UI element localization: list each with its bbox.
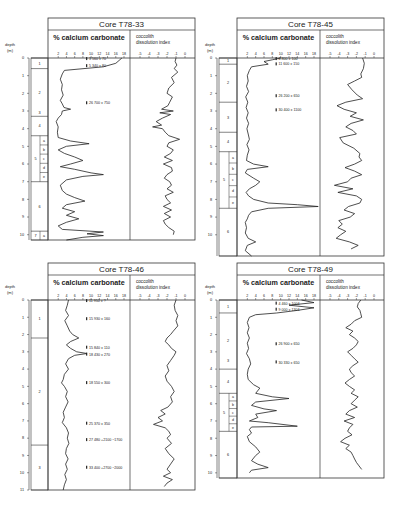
cdi-header-line1: coccolith (326, 279, 344, 284)
unit-label: 4 (227, 140, 229, 144)
cdi-tick: -1 (174, 52, 177, 56)
depth-tick: 4 (22, 127, 24, 131)
caco3-tick: 18 (312, 294, 316, 298)
depth-tick: 5 (210, 385, 212, 389)
cdi-tick: -2 (165, 294, 168, 298)
cdi-tick: -5 (328, 52, 331, 56)
depth-tick: 1 (22, 316, 24, 320)
depth-tick: 8 (22, 436, 24, 440)
cdi-header-line2: dissolution index (326, 40, 361, 45)
depth-tick: 4 (22, 367, 24, 371)
cdi-tick: -4 (337, 52, 340, 56)
caco3-tick: 8 (271, 294, 273, 298)
unit-label: 3 (38, 466, 40, 470)
subunit-label: e (232, 201, 234, 205)
depth-tick: 1 (22, 74, 24, 78)
depth-tick: 3 (22, 350, 24, 354)
caco3-tick: 12 (97, 52, 101, 56)
caco3-curve (247, 300, 315, 473)
cdi-tick: -1 (364, 294, 367, 298)
cdi-tick: -2 (355, 294, 358, 298)
caco3-tick: 10 (279, 52, 283, 56)
depth-unit: (m) (207, 290, 214, 295)
caco3-tick: 2 (246, 294, 248, 298)
caco3-tick: 2 (57, 52, 59, 56)
caco3-tick: 6 (74, 52, 76, 56)
depth-label: depth (205, 42, 215, 47)
radiocarbon-date: 18 430 ± 270 (89, 353, 110, 357)
depth-tick: 9 (22, 215, 24, 219)
depth-tick: 2 (210, 333, 212, 337)
depth-label: depth (205, 284, 215, 289)
caco3-tick: 10 (89, 52, 93, 56)
unit-label: 5 (223, 178, 225, 182)
subunit-label: c (232, 411, 234, 415)
caco3-header: % calcium carbonate (243, 278, 315, 287)
unit-label: 2 (38, 91, 40, 95)
cdi-curve (334, 58, 364, 249)
caco3-header: % calcium carbonate (53, 33, 125, 42)
subunit-label: a (43, 234, 45, 238)
radiocarbon-date: 4 800 ± 100 (279, 57, 298, 61)
depth-tick: 0 (210, 56, 212, 60)
subunit-label: e (232, 426, 234, 430)
cdi-tick: -1 (174, 294, 177, 298)
caco3-tick: 2 (57, 294, 59, 298)
radiocarbon-date: 26 900 ± 650 (279, 342, 300, 346)
caco3-tick: 8 (82, 294, 84, 298)
unit-label: 3 (227, 116, 229, 120)
radiocarbon-date: 11 950 ± ? (89, 299, 106, 303)
caco3-tick: 4 (65, 294, 67, 298)
depth-tick: 6 (22, 162, 24, 166)
frame (237, 18, 384, 256)
subunit-label: a (232, 395, 234, 399)
core-t78-46-panel: Core T78-46% calcium carbonatecoccolithd… (0, 258, 202, 503)
depth-tick: 8 (22, 198, 24, 202)
caco3-tick: 18 (122, 52, 126, 56)
depth-tick: 1 (210, 316, 212, 320)
caco3-tick: 12 (287, 52, 291, 56)
cdi-tick: -2 (355, 52, 358, 56)
depth-tick: 9 (210, 215, 212, 219)
caco3-curve (62, 300, 88, 490)
caco3-tick: 14 (106, 52, 110, 56)
unit-label: 7 (34, 234, 36, 238)
depth-tick: 3 (210, 350, 212, 354)
cdi-tick: -4 (337, 294, 340, 298)
radiocarbon-date: 27 480 +2100 −1700 (89, 438, 122, 442)
subunit-label: c (232, 178, 234, 182)
depth-tick: 0 (22, 56, 24, 60)
radiocarbon-date: 18 550 ± 300 (89, 381, 110, 385)
depth-tick: 6 (210, 402, 212, 406)
cdi-tick: -3 (156, 294, 159, 298)
cdi-tick: -5 (328, 294, 331, 298)
caco3-tick: 8 (271, 52, 273, 56)
caco3-tick: 16 (304, 294, 308, 298)
cdi-tick: -5 (138, 52, 141, 56)
caco3-header: % calcium carbonate (53, 278, 125, 287)
unit-label: 2 (227, 339, 229, 343)
depth-tick: 9 (22, 454, 24, 458)
radiocarbon-date: 15 930 ± 160 (89, 317, 110, 321)
cdi-curve (153, 58, 180, 235)
subunit-label: a (43, 139, 45, 143)
depth-unit: (m) (7, 290, 14, 295)
subunit-label: d (232, 189, 234, 193)
caco3-tick: 4 (65, 52, 67, 56)
depth-tick: 4 (210, 367, 212, 371)
depth-tick: 6 (22, 402, 24, 406)
cdi-tick: 0 (184, 52, 186, 56)
cdi-tick: -3 (346, 294, 349, 298)
radiocarbon-date: 30 400 ± 1100 (279, 108, 302, 112)
radiocarbon-date: 11 600 ± 150 (279, 62, 300, 66)
unit-label: 2 (38, 390, 40, 394)
cdi-tick: -4 (147, 52, 150, 56)
unit-label: 1 (227, 305, 229, 309)
cdi-header-line2: dissolution index (136, 285, 171, 290)
radiocarbon-date: 3 560 ± 70 (89, 57, 106, 61)
caco3-curve (245, 58, 318, 256)
caco3-tick: 6 (263, 52, 265, 56)
core-t78-33-panel: Core T78-33% calcium carbonatecoccolithd… (0, 8, 202, 248)
depth-tick: 10 (20, 471, 24, 475)
unit-label: 6 (227, 230, 229, 234)
